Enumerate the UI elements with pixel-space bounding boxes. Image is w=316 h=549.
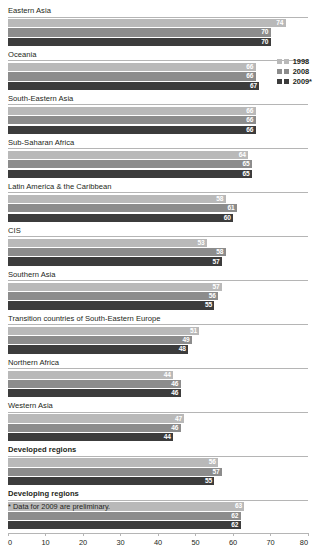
bar-value-label: 70 [261, 29, 270, 36]
bars: 646565 [8, 151, 308, 178]
bar-row: 65 [8, 170, 308, 178]
bar: 49 [8, 336, 192, 344]
bar-value-label: 57 [212, 469, 221, 476]
bar-row: 74 [8, 19, 308, 27]
bar: 46 [8, 424, 181, 432]
bar-row: 44 [8, 371, 308, 379]
bars: 586160 [8, 195, 308, 222]
bar-row: 56 [8, 458, 308, 466]
chart-container: 1998 2008 2009* Eastern Asia747070Oceani… [0, 6, 316, 516]
category-label: Eastern Asia [8, 6, 308, 18]
bar-row: 64 [8, 151, 308, 159]
axis-tick [195, 533, 196, 536]
bar-value-label: 63 [235, 503, 244, 510]
bar: 48 [8, 345, 188, 353]
bar-row: 66 [8, 116, 308, 124]
axis-tick [120, 533, 121, 536]
bar: 70 [8, 38, 271, 46]
bar: 66 [8, 72, 256, 80]
bar-group: Developed regions565755 [8, 445, 308, 485]
bar-row: 66 [8, 63, 308, 71]
axis-tick-label: 0 [8, 538, 12, 547]
category-label: Transition countries of South-Eastern Eu… [8, 314, 308, 326]
bar-row: 46 [8, 380, 308, 388]
bars: 575655 [8, 283, 308, 310]
bar-value-label: 48 [179, 346, 188, 353]
bar-value-label: 47 [175, 415, 184, 422]
legend-swatch-icon [277, 69, 282, 74]
bar-row: 57 [8, 257, 308, 265]
bar-row: 60 [8, 214, 308, 222]
bar-row: 48 [8, 345, 308, 353]
bar-row: 62 [8, 512, 308, 520]
category-label: South-Eastern Asia [8, 94, 308, 106]
category-label: Sub-Saharan Africa [8, 138, 308, 150]
axis-tick-label: 40 [154, 538, 162, 547]
bar-value-label: 70 [261, 39, 270, 46]
bar: 65 [8, 170, 252, 178]
bars: 535857 [8, 239, 308, 266]
bar: 64 [8, 151, 248, 159]
legend-label: 2009* [293, 78, 312, 85]
axis-tick [233, 533, 234, 536]
bar: 55 [8, 477, 214, 485]
bar: 57 [8, 283, 222, 291]
bar-value-label: 57 [212, 283, 221, 290]
legend-swatch-icon [277, 79, 282, 84]
bar-value-label: 53 [197, 239, 206, 246]
bar-value-label: 56 [209, 459, 218, 466]
axis-tick-label: 60 [229, 538, 237, 547]
bar-value-label: 65 [242, 161, 251, 168]
legend-swatch-icon [284, 79, 289, 84]
axis-tick [270, 533, 271, 536]
legend-item-1998: 1998 [277, 58, 312, 65]
bar-group: Oceania666667 [8, 50, 308, 90]
bar-group: Transition countries of South-Eastern Eu… [8, 314, 308, 354]
bars: 514948 [8, 327, 308, 354]
chart-footnote: * Data for 2009 are preliminary. [8, 502, 110, 511]
bar-value-label: 44 [164, 371, 173, 378]
axis-tick [308, 533, 309, 536]
legend-swatch-icon [284, 59, 289, 64]
bar-row: 57 [8, 468, 308, 476]
bar-value-label: 67 [250, 82, 259, 89]
bar: 57 [8, 468, 222, 476]
bar-value-label: 46 [171, 425, 180, 432]
axis-tick-label: 80 [300, 538, 308, 547]
category-label: Latin America & the Caribbean [8, 182, 308, 194]
bar-group: CIS535857 [8, 226, 308, 266]
axis-tick-label: 50 [191, 538, 199, 547]
bar: 65 [8, 160, 252, 168]
category-label: Developing regions [8, 489, 308, 501]
bar-value-label: 61 [227, 205, 236, 212]
bar-value-label: 56 [209, 293, 218, 300]
bar: 66 [8, 116, 256, 124]
bar: 62 [8, 521, 241, 529]
bar-group: Eastern Asia747070 [8, 6, 308, 46]
bars: 747070 [8, 19, 308, 46]
bar-row: 62 [8, 521, 308, 529]
bar-value-label: 58 [216, 196, 225, 203]
bar-value-label: 66 [246, 126, 255, 133]
bar: 51 [8, 327, 199, 335]
bar-row: 58 [8, 195, 308, 203]
bar-value-label: 57 [212, 258, 221, 265]
bar-value-label: 66 [246, 64, 255, 71]
bar-value-label: 58 [216, 249, 225, 256]
bar-row: 66 [8, 72, 308, 80]
bar-row: 67 [8, 82, 308, 90]
bar-value-label: 46 [171, 381, 180, 388]
bars: 666666 [8, 107, 308, 134]
bar: 62 [8, 512, 241, 520]
bar-group: Sub-Saharan Africa646565 [8, 138, 308, 178]
bar-group: South-Eastern Asia666666 [8, 94, 308, 134]
bar-row: 70 [8, 38, 308, 46]
bar: 60 [8, 214, 233, 222]
category-label: CIS [8, 226, 308, 238]
bar: 47 [8, 414, 184, 422]
bar-row: 58 [8, 248, 308, 256]
bars: 444646 [8, 371, 308, 398]
bar-row: 65 [8, 160, 308, 168]
bar-value-label: 65 [242, 170, 251, 177]
bar: 44 [8, 371, 173, 379]
